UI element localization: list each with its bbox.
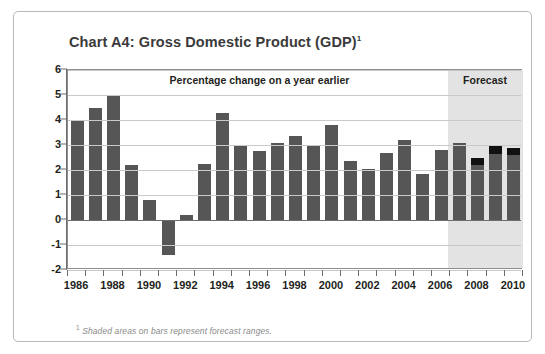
bar-2000: [325, 125, 338, 220]
bar-solid-1993: [198, 164, 211, 220]
bar-1990: [143, 200, 156, 220]
x-tick-label-1994: 1994: [209, 279, 233, 291]
chart-footnote: 1 Shaded areas on bars represent forecas…: [76, 324, 272, 336]
bar-1999: [307, 145, 320, 220]
bar-2009: [489, 146, 502, 220]
bar-solid-1989: [125, 165, 138, 220]
bar-solid-1988: [107, 95, 120, 220]
bar-solid-2007: [453, 143, 466, 221]
x-tick-mark-17: [376, 270, 377, 276]
x-tick-mark-6: [176, 270, 177, 276]
bar-solid-1998: [289, 136, 302, 220]
bar-1996: [253, 151, 266, 220]
x-tick-mark-7: [194, 270, 195, 276]
bar-series: [68, 70, 521, 268]
y-tick-label-0: 0: [40, 213, 61, 225]
bar-1995: [234, 146, 247, 220]
x-tick-label-1990: 1990: [137, 279, 161, 291]
bar-1998: [289, 136, 302, 220]
chart-title: Chart A4: Gross Domestic Product (GDP)1: [69, 34, 361, 50]
x-tick-mark-19: [413, 270, 414, 276]
bar-solid-1997: [271, 143, 284, 221]
y-tick-label-6: 6: [40, 63, 61, 75]
bar-forecast-range-2009: [489, 146, 502, 154]
bar-solid-2008: [471, 165, 484, 220]
x-tick-mark-1: [85, 270, 86, 276]
x-tick-mark-2: [103, 270, 104, 276]
x-tick-mark-25: [522, 270, 523, 276]
x-tick-label-1988: 1988: [100, 279, 124, 291]
bar-solid-2004: [398, 140, 411, 220]
bar-solid-1999: [307, 145, 320, 220]
bar-forecast-range-2008: [471, 158, 484, 166]
bar-solid-1994: [216, 113, 229, 221]
x-tick-mark-12: [285, 270, 286, 276]
x-tick-mark-0: [67, 270, 68, 276]
bar-2003: [380, 153, 393, 221]
x-tick-mark-4: [140, 270, 141, 276]
footnote-text: Shaded areas on bars represent forecast …: [82, 326, 272, 336]
bar-solid-2000: [325, 125, 338, 220]
chart-frame: Chart A4: Gross Domestic Product (GDP)1 …: [13, 11, 532, 342]
x-tick-mark-15: [340, 270, 341, 276]
x-tick-mark-13: [304, 270, 305, 276]
y-tick-label-1: 1: [40, 188, 61, 200]
x-tick-mark-16: [358, 270, 359, 276]
x-tick-mark-20: [431, 270, 432, 276]
chart-page: Chart A4: Gross Domestic Product (GDP)1 …: [0, 0, 545, 354]
y-tick-label--1: -1: [40, 238, 61, 250]
x-tick-mark-18: [395, 270, 396, 276]
bar-2004: [398, 140, 411, 220]
gridline-2: [68, 170, 521, 171]
x-tick-label-2006: 2006: [428, 279, 452, 291]
x-tick-label-2000: 2000: [319, 279, 343, 291]
x-axis: 1986198819901992199419961998200020022004…: [67, 270, 522, 300]
bar-2005: [416, 174, 429, 220]
bar-solid-1987: [89, 108, 102, 221]
gridline-5: [68, 95, 521, 96]
bar-2006: [435, 150, 448, 220]
x-tick-label-2004: 2004: [391, 279, 415, 291]
bar-solid-2003: [380, 153, 393, 221]
gridline-1: [68, 195, 521, 196]
x-tick-mark-14: [322, 270, 323, 276]
bar-1991: [162, 220, 175, 255]
x-tick-label-2010: 2010: [501, 279, 525, 291]
bar-solid-2009: [489, 154, 502, 220]
y-axis: 6543210-1-2: [46, 69, 67, 269]
bar-solid-1996: [253, 151, 266, 220]
bar-1997: [271, 143, 284, 221]
bar-solid-1991: [162, 220, 175, 255]
bar-1987: [89, 108, 102, 221]
bar-solid-2006: [435, 150, 448, 220]
bar-2008: [471, 158, 484, 221]
zero-line: [68, 220, 521, 221]
bar-1988: [107, 95, 120, 220]
gridline-4: [68, 120, 521, 121]
x-tick-mark-22: [467, 270, 468, 276]
chart-title-footnote-marker: 1: [357, 34, 362, 43]
footnote-marker: 1: [76, 324, 80, 331]
chart-title-text: Chart A4: Gross Domestic Product (GDP): [69, 34, 357, 50]
x-tick-label-1986: 1986: [64, 279, 88, 291]
bar-solid-1990: [143, 200, 156, 220]
x-tick-mark-11: [267, 270, 268, 276]
y-tick-label--2: -2: [40, 263, 61, 275]
x-tick-label-1996: 1996: [246, 279, 270, 291]
gridline-3: [68, 145, 521, 146]
bar-solid-1995: [234, 146, 247, 220]
x-tick-label-2008: 2008: [464, 279, 488, 291]
bar-2007: [453, 143, 466, 221]
gridline--1: [68, 245, 521, 246]
x-tick-label-1998: 1998: [282, 279, 306, 291]
x-tick-mark-3: [122, 270, 123, 276]
bar-1994: [216, 113, 229, 221]
y-tick-label-3: 3: [40, 138, 61, 150]
x-tick-mark-24: [504, 270, 505, 276]
x-tick-mark-9: [231, 270, 232, 276]
bar-1993: [198, 164, 211, 220]
plot-area: Percentage change on a year earlier Fore…: [67, 69, 522, 269]
x-tick-mark-21: [449, 270, 450, 276]
bar-1989: [125, 165, 138, 220]
bar-solid-2005: [416, 174, 429, 220]
